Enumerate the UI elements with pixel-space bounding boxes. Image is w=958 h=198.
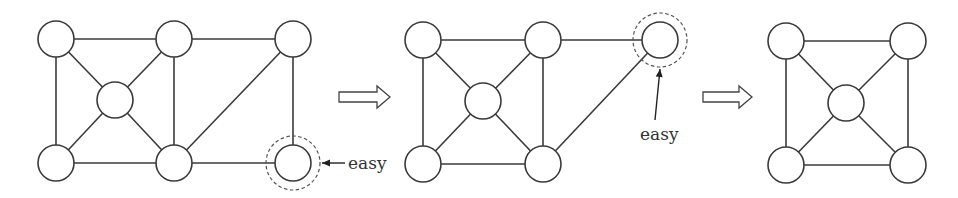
node-BM — [525, 146, 561, 182]
node-TL — [768, 23, 804, 59]
node-TL — [405, 22, 441, 58]
graph-3 — [768, 23, 926, 183]
edge-TR-BM — [174, 39, 293, 163]
node-C — [828, 85, 864, 121]
node-BL — [38, 145, 74, 181]
node-BR — [890, 147, 926, 183]
graph-reduction-diagram: easyeasy — [0, 0, 958, 198]
node-BL — [405, 146, 441, 182]
easy-label: easy — [348, 153, 387, 173]
graph-1: easy — [38, 21, 387, 190]
node-BL — [768, 147, 804, 183]
graph-2: easy — [405, 13, 687, 182]
transition-arrow-icon-1 — [339, 86, 390, 108]
node-TM — [525, 22, 561, 58]
node-TL — [38, 21, 74, 57]
edge-TR-BM — [543, 40, 660, 164]
pointer-arrowhead-icon — [322, 160, 330, 167]
node-C — [465, 83, 501, 119]
node-C — [97, 82, 133, 118]
node-TR — [642, 22, 678, 58]
node-BM — [156, 145, 192, 181]
node-BR — [275, 145, 311, 181]
node-TM — [156, 21, 192, 57]
easy-label: easy — [640, 124, 679, 144]
node-TR — [275, 21, 311, 57]
transition-arrow-icon-2 — [703, 86, 752, 108]
node-TR — [890, 23, 926, 59]
